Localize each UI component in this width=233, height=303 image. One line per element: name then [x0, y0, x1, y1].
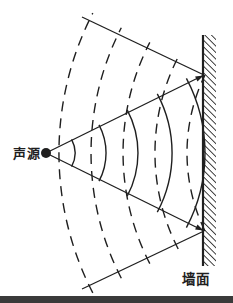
reflected-wavefront-arc: [155, 57, 178, 249]
sound-reflection-diagram: 声源 墙面: [0, 0, 233, 303]
reflected-ray-line: [82, 17, 204, 75]
sound-rays-group: [49, 17, 204, 289]
reflected-wavefront-arc: [123, 42, 150, 263]
incident-wavefront-arc: [99, 125, 106, 181]
bottom-border-bar: [0, 296, 233, 303]
incident-ray-line: [49, 75, 204, 152]
incident-wavefront-arc: [72, 139, 75, 166]
incident-ray-line: [49, 155, 204, 232]
figure-canvas: 声源 墙面: [0, 0, 233, 303]
wavefront-arcs-group: [59, 13, 205, 293]
wall-hatched-bar: [203, 35, 216, 266]
wall-label: 墙面: [182, 271, 210, 287]
sound-source-label: 声源: [12, 146, 40, 161]
sound-source-dot: [41, 148, 51, 158]
incident-wavefront-arc: [127, 110, 138, 196]
